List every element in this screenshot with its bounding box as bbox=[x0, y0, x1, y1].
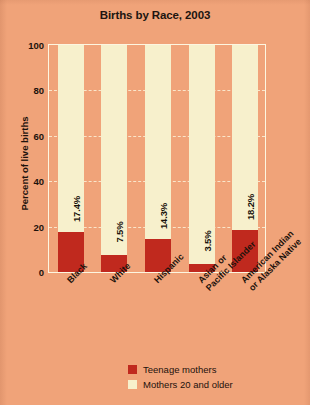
scan-edge-shading-top bbox=[0, 0, 310, 5]
legend-item[interactable]: Teenage mothers bbox=[128, 364, 233, 375]
chart-title: Births by Race, 2003 bbox=[0, 9, 310, 21]
legend-swatch bbox=[128, 380, 137, 389]
y-axis-tick-label: 60 bbox=[33, 130, 44, 141]
legend-item[interactable]: Mothers 20 and older bbox=[128, 379, 233, 390]
scan-edge-shading-left bbox=[0, 0, 7, 405]
scan-edge-shading-right bbox=[304, 0, 310, 405]
bar-group[interactable]: 7.5% bbox=[101, 45, 127, 272]
y-axis-label: Percent of live births bbox=[19, 94, 30, 234]
bar-group[interactable]: 17.4% bbox=[58, 45, 84, 272]
y-axis-tick-label: 100 bbox=[28, 40, 44, 51]
legend-label: Mothers 20 and older bbox=[143, 379, 233, 390]
y-axis-tick-label: 80 bbox=[33, 85, 44, 96]
chart-figure: Births by Race, 2003 Percent of live bir… bbox=[0, 0, 310, 405]
y-axis-tick-label: 40 bbox=[33, 176, 44, 187]
bar-group[interactable]: 3.5% bbox=[189, 45, 215, 272]
y-axis-tick-label: 20 bbox=[33, 221, 44, 232]
y-axis-tick-label: 0 bbox=[39, 267, 44, 278]
plot-area: 020406080100 17.4%7.5%14.3%3.5%18.2% Bla… bbox=[48, 44, 266, 273]
legend-label: Teenage mothers bbox=[143, 364, 216, 375]
legend-swatch bbox=[128, 365, 137, 374]
chart-legend: Teenage mothersMothers 20 and older bbox=[128, 364, 233, 394]
bar-group[interactable]: 14.3% bbox=[145, 45, 171, 272]
